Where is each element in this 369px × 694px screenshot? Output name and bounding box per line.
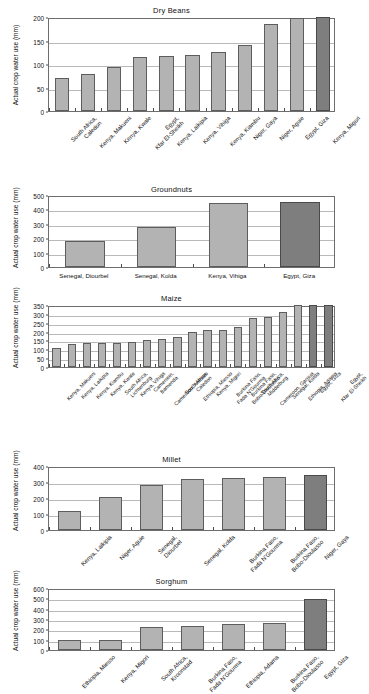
grid-line — [49, 611, 334, 612]
plot-area — [48, 196, 335, 268]
y-tick-label: 0 — [40, 265, 44, 272]
grid-line — [49, 316, 334, 317]
y-tick-label: 250 — [33, 320, 44, 327]
y-tick-label: 100 — [33, 250, 44, 257]
bar — [249, 318, 257, 367]
y-tick-label: 200 — [33, 15, 44, 22]
plot-area — [48, 306, 335, 368]
y-axis-label: Actual crop water use (mm) — [12, 589, 19, 651]
x-tick-mark — [64, 364, 65, 367]
x-tick-label: Egypt, Giza — [323, 654, 350, 681]
plot-area — [48, 589, 335, 651]
x-tick-mark — [200, 364, 201, 367]
bar — [185, 55, 199, 111]
y-axis-label-text: Actual crop water use (mm) — [12, 306, 19, 368]
bar — [81, 74, 95, 111]
bar — [83, 343, 91, 367]
x-tick-mark — [155, 364, 156, 367]
x-tick-mark — [90, 527, 91, 530]
x-tick-label: Kenya, Vihiga — [192, 272, 264, 279]
y-tick-label: 50 — [37, 356, 44, 363]
bar — [304, 599, 327, 650]
bar — [140, 485, 163, 530]
y-tick-label: 300 — [33, 480, 44, 487]
x-tick-mark — [185, 364, 186, 367]
bar — [181, 626, 204, 650]
x-tick-label: Niger, Aguie — [278, 115, 305, 142]
x-tick-label: Burkina Faso,Fada N'Gourma — [203, 654, 242, 693]
y-tick-label: 400 — [33, 207, 44, 214]
x-tick-mark — [206, 108, 207, 111]
y-tick-label: 0 — [40, 109, 44, 116]
y-axis-label-text: Actual crop water use (mm) — [12, 467, 19, 531]
bar — [263, 623, 286, 650]
y-tick-label: 300 — [33, 221, 44, 228]
x-tick-mark — [101, 108, 102, 111]
bar — [173, 337, 181, 367]
x-tick-mark — [291, 364, 292, 367]
x-tick-mark — [49, 364, 50, 367]
x-tick-label: Kenya, Migori — [332, 115, 362, 145]
bar — [203, 330, 211, 367]
x-tick-mark — [193, 264, 194, 267]
bar — [309, 305, 317, 367]
x-tick-mark — [295, 527, 296, 530]
x-tick-label: Senegal, Diourbel — [48, 272, 120, 279]
x-tick-label: Kenya, Laikipia — [79, 534, 112, 567]
x-tick-label: Ethiopia, Adama — [244, 654, 280, 690]
bar — [65, 241, 104, 267]
y-tick-label: 500 — [33, 596, 44, 603]
bar — [238, 45, 252, 111]
y-axis-label: Actual crop water use (mm) — [12, 196, 19, 268]
x-tick-mark — [49, 647, 50, 650]
x-tick-mark — [172, 527, 173, 530]
y-tick-label: 50 — [37, 85, 44, 92]
bar — [222, 478, 245, 530]
y-axis-label: Actual crop water use (mm) — [12, 18, 19, 112]
y-axis-label: Actual crop water use (mm) — [12, 306, 19, 368]
x-tick-mark — [264, 264, 265, 267]
x-tick-mark — [75, 108, 76, 111]
x-tick-mark — [121, 264, 122, 267]
x-tick-label: Senegal, Kolda — [202, 534, 235, 567]
y-tick-label: 150 — [33, 38, 44, 45]
chart-title: Maize — [0, 294, 343, 303]
bar — [159, 56, 173, 111]
bar — [128, 342, 136, 367]
grid-line — [49, 325, 334, 326]
bar — [324, 305, 332, 367]
chart-title: Groundnuts — [0, 185, 343, 194]
y-tick-label: 150 — [33, 338, 44, 345]
plot-area — [48, 467, 335, 531]
x-tick-label: Burkina Faso,Bobo-Dioulasso — [285, 654, 324, 693]
x-tick-label: Kenya, Migori — [119, 654, 150, 685]
x-tick-label: Ethiopia, Miesso — [80, 654, 116, 690]
y-tick-label: 300 — [33, 311, 44, 318]
x-tick-mark — [258, 108, 259, 111]
y-tick-label: 100 — [33, 347, 44, 354]
y-axis-label-text: Actual crop water use (mm) — [12, 196, 19, 268]
x-tick-label: Egypt, Giza — [263, 272, 335, 279]
bar — [222, 624, 245, 650]
x-tick-mark — [295, 647, 296, 650]
y-tick-label: 350 — [33, 303, 44, 310]
x-tick-mark — [170, 364, 171, 367]
x-tick-mark — [245, 364, 246, 367]
x-tick-mark — [310, 108, 311, 111]
x-tick-mark — [131, 647, 132, 650]
chart-title: Sorghum — [0, 577, 343, 586]
y-tick-label: 400 — [33, 606, 44, 613]
bar — [263, 477, 286, 530]
bar — [304, 475, 327, 530]
bar — [290, 18, 304, 111]
x-tick-mark — [215, 364, 216, 367]
x-tick-label: Niger, Aguie — [118, 534, 146, 562]
bar — [52, 348, 60, 367]
bar — [113, 343, 121, 367]
x-tick-mark — [284, 108, 285, 111]
y-tick-label: 400 — [33, 464, 44, 471]
y-tick-label: 200 — [33, 236, 44, 243]
y-tick-label: 300 — [33, 617, 44, 624]
bar — [158, 339, 166, 367]
bar — [99, 497, 122, 530]
